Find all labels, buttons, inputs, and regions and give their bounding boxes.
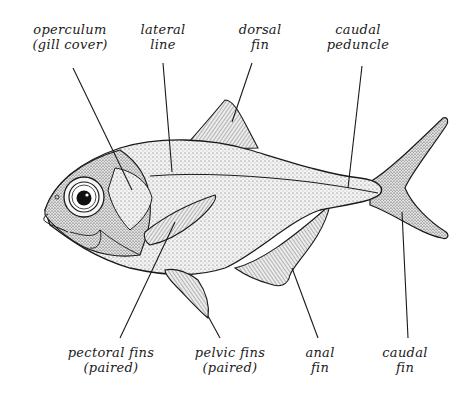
label-dorsal-fin: dorsal fin <box>225 22 295 52</box>
fish-anatomy-diagram: operculum (gill cover) lateral line dors… <box>0 0 475 409</box>
label-caudal-fin: caudal fin <box>372 345 438 375</box>
leader-anal-fin <box>292 268 318 338</box>
label-operculum: operculum (gill cover) <box>22 22 118 52</box>
label-lateral-line: lateral line <box>128 22 198 52</box>
label-pectoral-fins: pectoral fins (paired) <box>56 345 166 375</box>
label-pelvic-fins: pelvic fins (paired) <box>182 345 278 375</box>
leader-dorsal-fin <box>232 63 252 122</box>
pelvic-fin-shape <box>165 269 209 318</box>
label-caudal-peduncle: caudal peduncle <box>318 22 398 52</box>
eye-icon <box>64 177 104 217</box>
leader-caudal-fin <box>402 212 408 338</box>
leader-caudal-peduncle <box>348 66 362 188</box>
leader-pelvic-fins <box>208 316 220 338</box>
label-anal-fin: anal fin <box>290 345 350 375</box>
caudal-fin-shape <box>370 118 448 239</box>
